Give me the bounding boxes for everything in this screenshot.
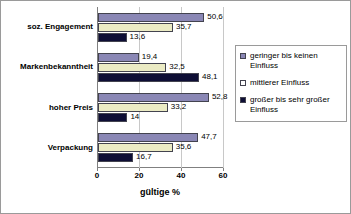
x-tick-label-0: 0	[95, 171, 99, 180]
x-tick-label-20: 20	[135, 171, 144, 180]
legend-label: geringer bis keinen Einfluss	[250, 51, 342, 71]
bar-row: 13,6	[98, 33, 223, 42]
legend-label: mittlerer Einfluss	[250, 78, 309, 88]
category-axis-labels: soz. EngagementMarkenbekanntheithoher Pr…	[1, 7, 93, 168]
x-tick-label-40: 40	[177, 171, 186, 180]
category-label: Markenbekanntheit	[1, 62, 93, 71]
bar-row: 35,7	[98, 23, 223, 32]
bar-row: 48,1	[98, 73, 223, 82]
bar-row: 14	[98, 113, 223, 122]
bar-group: 52,833,214	[98, 93, 223, 123]
legend-swatch-icon	[240, 53, 246, 59]
chart-legend: geringer bis keinen Einflussmittlerer Ei…	[235, 45, 347, 122]
bar-group: 47,735,616,7	[98, 133, 223, 163]
legend-item[interactable]: großer bis sehr großer Einfluss	[240, 95, 342, 115]
bar-value-label: 33,2	[171, 101, 187, 112]
bar[interactable]	[98, 33, 127, 42]
legend-item[interactable]: mittlerer Einfluss	[240, 78, 342, 88]
bar-value-label: 47,7	[201, 131, 217, 142]
x-tick-label-60: 60	[219, 171, 228, 180]
bar-row: 35,6	[98, 143, 223, 152]
bar-group: 19,432,548,1	[98, 53, 223, 83]
bar[interactable]	[98, 153, 133, 162]
x-axis-line	[97, 167, 223, 168]
bar[interactable]	[98, 63, 166, 72]
category-label: hoher Preis	[1, 103, 93, 112]
bar-value-label: 19,4	[142, 51, 158, 62]
bar-value-label: 35,6	[176, 141, 192, 152]
legend-label: großer bis sehr großer Einfluss	[250, 95, 342, 115]
bar[interactable]	[98, 113, 127, 122]
bar[interactable]	[98, 93, 209, 102]
bar[interactable]	[98, 73, 199, 82]
bar-row: 19,4	[98, 53, 223, 62]
category-label: Verpackung	[1, 143, 93, 152]
bar-value-label: 52,8	[212, 91, 228, 102]
bar-value-label: 13,6	[130, 31, 146, 42]
bar-row: 50,6	[98, 13, 223, 22]
category-label: soz. Engagement	[1, 22, 93, 31]
bar-value-label: 35,7	[176, 21, 192, 32]
gridline-60	[223, 7, 224, 168]
bar-row: 16,7	[98, 153, 223, 162]
bar-value-label: 48,1	[202, 71, 218, 82]
bar-group: 50,635,713,6	[98, 13, 223, 43]
plot-area: 50,635,713,619,432,548,152,833,21447,735…	[97, 7, 223, 168]
bar-chart-figure: soz. EngagementMarkenbekanntheithoher Pr…	[0, 0, 351, 214]
bar-row: 33,2	[98, 103, 223, 112]
bar-row: 52,8	[98, 93, 223, 102]
x-axis-title: gültige %	[97, 187, 223, 197]
bar-row: 47,7	[98, 133, 223, 142]
x-axis-tick-labels: 0204060	[97, 171, 223, 183]
bar-value-label: 14	[130, 111, 139, 122]
legend-item[interactable]: geringer bis keinen Einfluss	[240, 51, 342, 71]
bar[interactable]	[98, 53, 139, 62]
bar-value-label: 50,6	[207, 11, 223, 22]
bar-value-label: 32,5	[169, 61, 185, 72]
bar-value-label: 16,7	[136, 151, 152, 162]
legend-swatch-icon	[240, 80, 246, 86]
legend-swatch-icon	[240, 97, 246, 103]
